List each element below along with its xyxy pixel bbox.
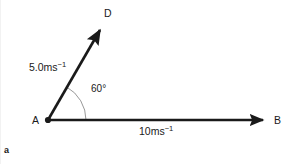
angle-label-value: 60 [91,83,102,94]
magnitude-label-ad-text: 5.0ms [29,61,58,73]
vertex-point-a [45,117,51,123]
point-label-d: D [104,8,112,19]
vector-diagram-figure: D A B 5.0ms−1 10ms−1 60° a [0,0,291,164]
diagram-canvas [0,0,291,164]
magnitude-label-ad: 5.0ms−1 [29,62,66,73]
magnitude-label-ab-text: 10ms [139,125,165,137]
magnitude-label-ad-exponent: −1 [58,60,67,69]
figure-caption-label: a [4,146,9,155]
angle-arc [67,87,87,120]
angle-label: 60° [91,84,106,94]
point-label-a: A [32,115,39,126]
vector-line-ad [48,30,100,120]
magnitude-label-ab-exponent: −1 [165,124,174,133]
angle-label-degree-symbol: ° [102,83,106,94]
magnitude-label-ab: 10ms−1 [139,126,173,137]
point-label-b: B [274,115,281,126]
